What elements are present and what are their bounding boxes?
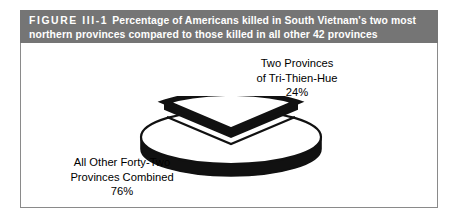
label-other-provinces-value: 76%	[32, 184, 212, 199]
label-other-provinces-line2: Provinces Combined	[32, 170, 212, 185]
figure-container: FIGURE III-1Percentage of Americans kill…	[0, 0, 459, 223]
chart-area: Two Provinces of Tri-Thien-Hue 24% All O…	[21, 43, 437, 207]
figure-caption-bar: FIGURE III-1Percentage of Americans kill…	[20, 10, 438, 43]
label-other-provinces: All Other Forty-Two Provinces Combined 7…	[32, 155, 212, 199]
label-tri-thien-hue-line2: of Tri-Thien-Hue	[217, 71, 377, 86]
label-tri-thien-hue-line1: Two Provinces	[217, 56, 377, 71]
label-tri-thien-hue-value: 24%	[217, 85, 377, 100]
label-other-provinces-line1: All Other Forty-Two	[32, 155, 212, 170]
figure-number-label: FIGURE III-1	[29, 15, 108, 26]
label-tri-thien-hue: Two Provinces of Tri-Thien-Hue 24%	[217, 56, 377, 100]
